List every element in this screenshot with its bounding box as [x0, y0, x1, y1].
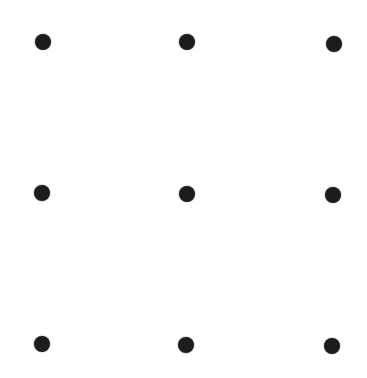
grid-dot: [324, 338, 340, 354]
grid-dot: [325, 187, 341, 203]
dot-grid-canvas: [0, 0, 367, 378]
grid-dot: [178, 337, 194, 353]
grid-dot: [179, 34, 195, 50]
grid-dot: [35, 34, 51, 50]
grid-dot: [34, 336, 50, 352]
grid-dot: [326, 36, 342, 52]
grid-dot: [179, 186, 195, 202]
grid-dot: [34, 185, 50, 201]
